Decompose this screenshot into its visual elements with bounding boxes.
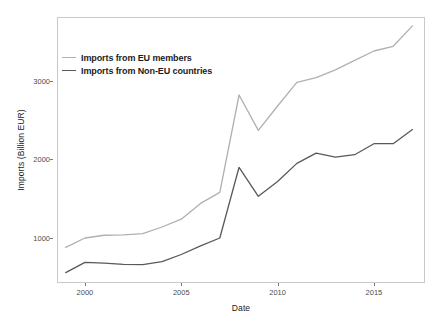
x-tick-label: 2005 [161,288,201,297]
x-tick-mark [85,283,86,286]
x-tick-mark [278,283,279,286]
legend-item-label: Imports from Non-EU countries [81,66,212,76]
legend-item-label: Imports from EU members [81,53,192,63]
legend-item: Imports from EU members [62,51,212,64]
series-line [66,130,413,273]
x-tick-label: 2000 [65,288,105,297]
x-tick-mark [181,283,182,286]
x-axis-title: Date [57,303,425,313]
legend-line-icon [62,57,76,58]
chart-legend: Imports from EU membersImports from Non-… [62,51,212,77]
x-tick-label: 2015 [354,288,394,297]
x-tick-mark [374,283,375,286]
legend-item: Imports from Non-EU countries [62,64,212,77]
chart-container: Imports (Billion EUR) 100020003000 20002… [0,0,440,326]
legend-line-icon [62,70,76,71]
x-tick-label: 2010 [258,288,298,297]
